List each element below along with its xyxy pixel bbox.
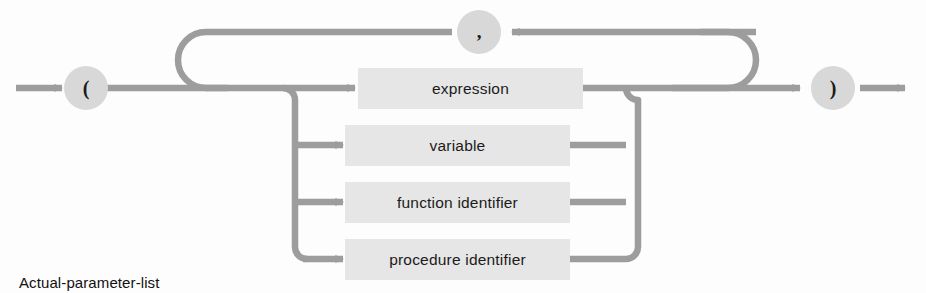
merge-trunk [626,88,638,259]
open-paren-label: ( [83,77,90,100]
comma-label: , [477,21,482,42]
nonterminal-box-function-identifier: function identifier [345,182,570,223]
syntax-diagram: expression variable function identifier … [0,0,926,293]
function-identifier-box-label: function identifier [397,194,518,211]
close-paren-label: ) [830,77,837,100]
nonterminal-boxes: expression variable function identifier … [345,68,583,280]
expression-box-label: expression [432,80,509,97]
loopback-right-uturn [672,32,756,88]
terminal-node-comma: , [457,10,501,54]
procedure-identifier-box-label: procedure identifier [389,251,526,268]
diagram-caption: Actual-parameter-list [19,274,159,291]
variable-box-label: variable [430,137,486,154]
fanout-trunk [283,88,307,259]
nonterminal-box-expression: expression [358,68,583,109]
terminal-node-open-paren: ( [64,66,108,110]
terminal-node-close-paren: ) [811,66,855,110]
nonterminal-box-variable: variable [345,125,570,166]
nonterminal-box-procedure-identifier: procedure identifier [345,239,570,280]
railroad-diagram-canvas: expression variable function identifier … [0,0,926,293]
